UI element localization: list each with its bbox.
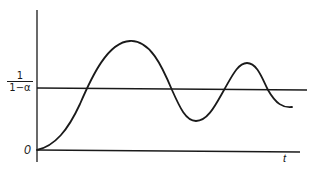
x-axis bbox=[37, 150, 300, 152]
fraction-numerator: 1 bbox=[7, 70, 33, 82]
fraction-denominator: 1−α bbox=[7, 82, 33, 93]
response-curve bbox=[37, 41, 292, 150]
oscillation-diagram bbox=[0, 0, 318, 172]
y-level-label: 1 1−α bbox=[7, 70, 33, 93]
x-axis-label: t bbox=[283, 152, 286, 164]
origin-label: 0 bbox=[24, 143, 31, 157]
